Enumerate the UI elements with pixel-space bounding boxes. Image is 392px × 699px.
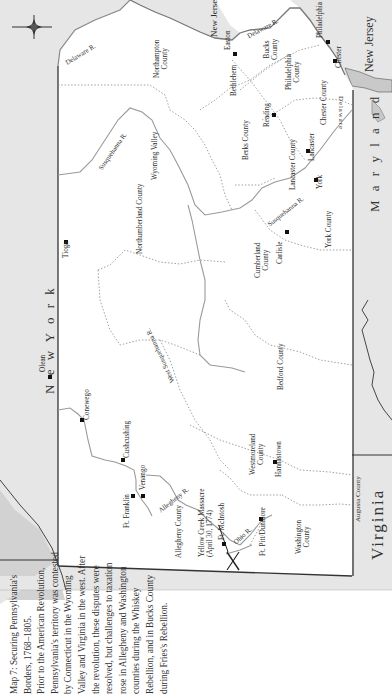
label-maryland: M a r y l a n d: [368, 94, 382, 212]
label-chester-county: Chester County: [321, 80, 329, 125]
town-marker-ft-mcintosh: [222, 542, 226, 546]
label-yellow-creek-massacre: Yellow Creek Massacre (April 30, 1774): [199, 489, 214, 557]
label-philadelphia: Philadelphia: [317, 2, 325, 38]
label-cumberland-county: Cumberland County: [255, 242, 270, 278]
label-philadelphia-county: Philadelphia County: [286, 54, 301, 90]
label-ft-mcintosh: Ft. McIntosh: [219, 503, 227, 540]
label-bethlehem: Bethlehem: [231, 65, 239, 96]
label-allegheny-county: Allegheny County: [176, 505, 184, 558]
label-lancaster: Lancaster: [309, 133, 317, 161]
label-augusta-county: Augusta County: [355, 476, 362, 522]
town-marker-reading: [272, 113, 276, 117]
caption-body: Prior to the American Revolution, Pennsy…: [35, 552, 171, 694]
label-ft-pitt-dunmore: Ft. Pitt/Dunmore: [260, 507, 268, 556]
label-washington-county: Washington County: [296, 520, 311, 554]
town-marker-carlisle: [285, 230, 289, 234]
town-marker-olean: [48, 375, 52, 379]
label-lancaster-county: Lancaster County: [290, 139, 298, 190]
label-olean: Olean: [40, 355, 48, 372]
label-cushcushing: Cushcushing: [124, 421, 132, 458]
label-new-jersey-right: New Jersey: [363, 16, 376, 72]
label-venango: Venango: [140, 465, 148, 490]
town-marker-philadelphia: [326, 40, 330, 44]
label-new-jersey-top: New Jersey: [210, 0, 219, 37]
label-virginia: Virginia: [369, 489, 387, 560]
town-marker-cushcushing: [121, 458, 125, 462]
label-chester: Chester: [336, 46, 344, 68]
label-wyoming-valley: Wyoming Valley: [152, 132, 160, 180]
label-ft-franklin: Ft. Franklin: [124, 494, 132, 528]
label-hannastown: Hannastown: [276, 441, 284, 477]
label-delaware-bay: Delaware: [338, 96, 345, 130]
label-northumberland-county: Northumberland County: [137, 184, 145, 254]
town-marker-ft-franklin: [131, 494, 135, 498]
label-easton: Easton: [225, 30, 233, 50]
label-northampton-county: Northampton County: [154, 40, 169, 78]
label-tioga: Tioga: [63, 241, 71, 258]
town-marker-easton: [233, 52, 237, 56]
label-bedford-county: Bedford County: [278, 343, 286, 390]
label-bucks-county: Bucks County: [264, 39, 279, 60]
label-reading: Reading: [264, 103, 272, 127]
label-york-county: York County: [326, 211, 334, 248]
label-york: York: [317, 175, 325, 189]
map-caption: Map 7: Securing Pennsylvania's Borders, …: [8, 552, 171, 694]
caption-title: Map 7: Securing Pennsylvania's Borders, …: [8, 552, 35, 694]
label-berks-county: Berks County: [243, 120, 251, 160]
label-carlisle: Carlisle: [277, 242, 285, 264]
town-marker-venango: [141, 494, 145, 498]
label-westmoreland-county: Westmoreland County: [250, 434, 265, 475]
label-conewego: Conewego: [84, 389, 92, 420]
